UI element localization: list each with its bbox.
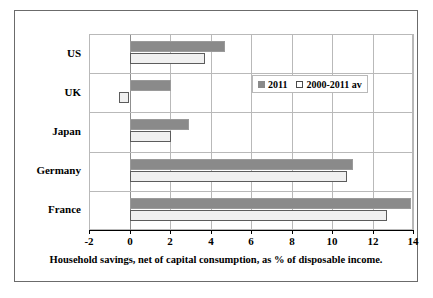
x-tick-label: 10 bbox=[317, 235, 347, 247]
y-axis-label-germany: Germany bbox=[15, 165, 81, 176]
y-axis-label-japan: Japan bbox=[15, 126, 81, 137]
x-tick-mark bbox=[413, 230, 414, 234]
x-tick-label: 2 bbox=[155, 235, 185, 247]
bar-average-uk bbox=[119, 92, 129, 103]
y-axis-label-us: US bbox=[15, 48, 81, 59]
x-tick-mark bbox=[170, 230, 171, 234]
bar-average-germany bbox=[130, 171, 347, 182]
legend-swatch-average-icon bbox=[296, 81, 303, 88]
legend-label-2011: 2011 bbox=[268, 79, 287, 90]
bar-2011-france bbox=[130, 198, 411, 209]
legend-item-2011: 2011 bbox=[258, 79, 287, 90]
legend-label-average: 2000-2011 av bbox=[306, 79, 361, 90]
x-tick-mark bbox=[89, 230, 90, 234]
x-tick-mark bbox=[373, 230, 374, 234]
x-tick-label: 6 bbox=[236, 235, 266, 247]
x-tick-mark bbox=[211, 230, 212, 234]
bar-average-japan bbox=[130, 131, 171, 142]
x-tick-label: 14 bbox=[398, 235, 428, 247]
x-axis-title: Household savings, net of capital consum… bbox=[15, 254, 417, 265]
chart-figure: USUKJapanGermanyFrance -202468101214 Hou… bbox=[14, 10, 418, 282]
y-axis-label-uk: UK bbox=[15, 87, 81, 98]
bar-average-france bbox=[130, 210, 387, 221]
bar-2011-japan bbox=[130, 119, 189, 130]
chart-legend: 2011 2000-2011 av bbox=[252, 75, 368, 93]
x-tick-mark bbox=[130, 230, 131, 234]
y-axis-label-france: France bbox=[15, 204, 81, 215]
x-tick-label: -2 bbox=[74, 235, 104, 247]
bar-average-us bbox=[130, 53, 205, 64]
bar-2011-uk bbox=[130, 80, 171, 91]
x-tick-mark bbox=[332, 230, 333, 234]
x-tick-mark bbox=[251, 230, 252, 234]
legend-swatch-2011-icon bbox=[258, 81, 265, 88]
x-tick-label: 0 bbox=[115, 235, 145, 247]
legend-item-average: 2000-2011 av bbox=[296, 79, 361, 90]
x-tick-label: 12 bbox=[358, 235, 388, 247]
bar-2011-us bbox=[130, 41, 225, 52]
x-tick-label: 4 bbox=[196, 235, 226, 247]
x-tick-mark bbox=[292, 230, 293, 234]
x-tick-label: 8 bbox=[277, 235, 307, 247]
bar-2011-germany bbox=[130, 159, 353, 170]
